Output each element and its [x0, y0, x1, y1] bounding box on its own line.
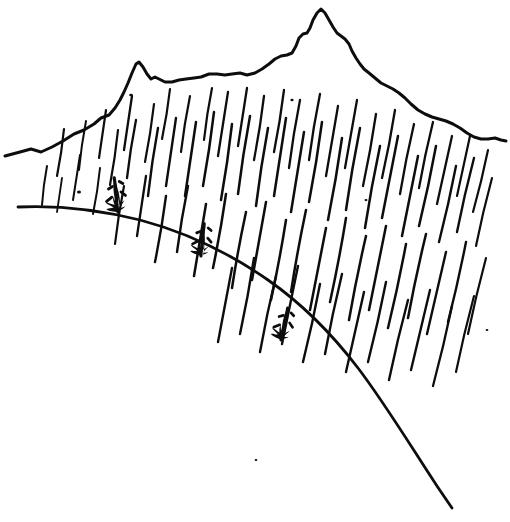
- ink-speckle: [77, 191, 81, 194]
- shrub-branch: [119, 181, 123, 184]
- drawing-canvas: [0, 0, 510, 522]
- ink-speckle: [365, 199, 368, 201]
- ink-speckle: [486, 329, 489, 331]
- ink-speckle: [255, 459, 258, 461]
- mountain-rain-drawing: Rain falling on a mountain ridge above a…: [0, 0, 510, 522]
- ink-speckle: [129, 94, 133, 97]
- ink-speckle: [290, 99, 293, 101]
